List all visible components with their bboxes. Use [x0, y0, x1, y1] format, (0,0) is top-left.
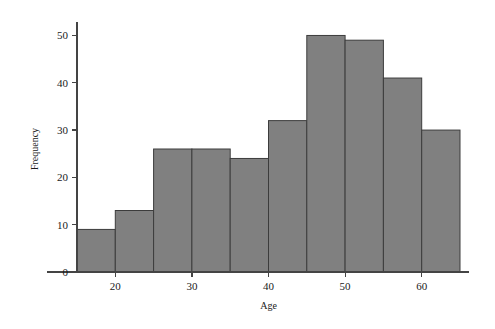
histogram-bar — [154, 149, 192, 272]
y-tick-label: 0 — [63, 266, 69, 278]
x-tick-label: 60 — [416, 280, 428, 292]
x-tick-label: 30 — [186, 280, 198, 292]
y-tick-label: 40 — [57, 77, 69, 89]
x-tick-label: 40 — [263, 280, 275, 292]
bars-group — [77, 35, 460, 272]
histogram-bar — [345, 40, 383, 272]
x-tick-label: 50 — [340, 280, 352, 292]
y-tick-label: 50 — [57, 29, 69, 41]
x-axis-title: Age — [260, 300, 277, 311]
histogram-bar — [77, 229, 115, 272]
x-ticks-group: 2030405060 — [110, 272, 428, 292]
histogram-figure: 010203040502030405060AgeFrequency — [0, 0, 495, 329]
histogram-bar — [269, 121, 307, 272]
y-tick-label: 20 — [57, 171, 69, 183]
y-tick-label: 30 — [57, 124, 69, 136]
y-axis-title: Frequency — [29, 128, 40, 170]
histogram-bar — [383, 78, 421, 272]
histogram-bar — [192, 149, 230, 272]
histogram-bar — [230, 158, 268, 272]
x-tick-label: 20 — [110, 280, 122, 292]
y-tick-label: 10 — [57, 219, 69, 231]
histogram-bar — [115, 211, 153, 273]
histogram-bar — [307, 35, 345, 272]
histogram-bar — [422, 130, 460, 272]
histogram-plot: 010203040502030405060AgeFrequency — [0, 0, 495, 329]
y-ticks-group: 01020304050 — [57, 29, 77, 278]
